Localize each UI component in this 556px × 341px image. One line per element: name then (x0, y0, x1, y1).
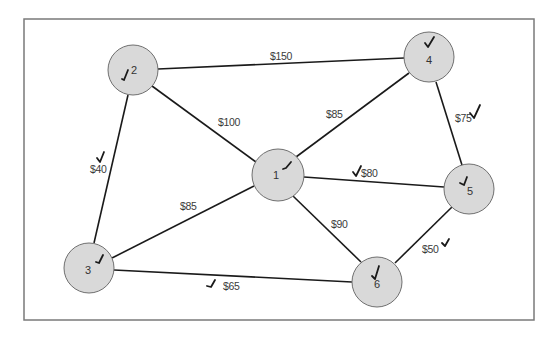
edge-cost-1-6: $90 (331, 218, 348, 230)
node-3-label: 3 (85, 264, 91, 276)
node-3: 3 (64, 243, 114, 293)
node-5: 5 (444, 164, 494, 214)
edge-cost-2-4: $150 (270, 50, 293, 62)
node-4: 4 (404, 32, 454, 82)
node-5-label: 5 (467, 185, 473, 197)
edge-cost-2-3: $40 (90, 163, 107, 175)
node-2-label: 2 (131, 64, 137, 76)
edge-cost-1-4: $85 (326, 108, 343, 120)
network-diagram: $150 $100 $40 $85 $85 $80 $90 $75 $50 $6… (0, 0, 556, 341)
edge-cost-2-1: $100 (218, 116, 241, 128)
node-4-label: 4 (426, 54, 432, 66)
edge-cost-5-6: $50 (422, 243, 439, 255)
node-1-label: 1 (273, 169, 279, 181)
node-1: 1 (252, 149, 304, 201)
edge-cost-1-3: $85 (180, 200, 197, 212)
node-2: 2 (108, 45, 158, 95)
edge-cost-1-5: $80 (361, 167, 378, 179)
node-6: 6 (352, 257, 402, 307)
edge-cost-3-6: $65 (223, 280, 240, 292)
